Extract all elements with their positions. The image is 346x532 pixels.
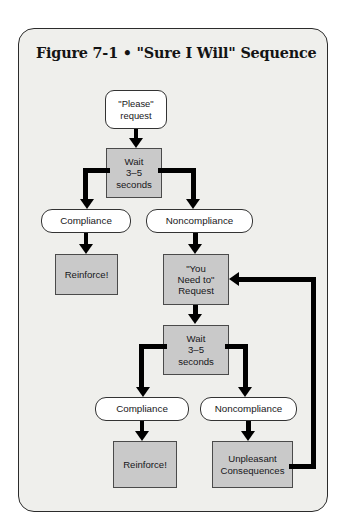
node-you-need-to-request-line2: Need to"	[177, 274, 214, 285]
node-compliance-1: Compliance	[41, 209, 131, 233]
node-wait-2-line2: 3–5	[178, 344, 214, 355]
edge-please-to-wait1-arrow	[129, 138, 143, 148]
figure-page: Figure 7-1 • "Sure I Will" Sequence "Ple…	[0, 0, 346, 532]
node-you-need-to-request: "You Need to" Request	[163, 254, 229, 305]
node-compliance-2-label: Compliance	[116, 403, 168, 415]
node-unpleasant-consequences: Unpleasant Consequences	[212, 441, 293, 488]
node-wait-1-line1: Wait	[116, 156, 152, 167]
node-reinforce-1-label: Reinforce!	[65, 269, 109, 280]
node-noncompliance-1-label: Noncompliance	[166, 215, 234, 227]
edge-wait1-left-v	[83, 168, 88, 201]
node-noncompliance-1: Noncompliance	[146, 209, 253, 233]
edge-wait2-left-arrow	[136, 387, 150, 397]
node-please-request-line2: request	[118, 110, 153, 121]
edge-wait1-left-arrow	[80, 199, 94, 209]
figure-title: Figure 7-1 • "Sure I Will" Sequence	[36, 44, 316, 61]
node-you-need-to-request-line1: "You	[177, 263, 214, 274]
node-wait-1: Wait 3–5 seconds	[106, 148, 162, 198]
node-noncompliance-2-label: Noncompliance	[215, 403, 283, 415]
node-unpleasant-consequences-line1: Unpleasant	[220, 453, 284, 464]
node-please-request-line1: "Please"	[118, 98, 153, 109]
edge-noncompliance1-to-request-arrow	[188, 244, 202, 254]
edge-compliance1-to-reinforce1-arrow	[79, 244, 93, 254]
edge-wait2-right-v	[243, 344, 248, 389]
edge-wait2-left-v	[139, 344, 144, 389]
node-reinforce-2: Reinforce!	[113, 441, 177, 488]
node-please-request: "Please" request	[105, 90, 167, 129]
node-wait-1-line3: seconds	[116, 179, 152, 190]
node-noncompliance-2: Noncompliance	[200, 397, 297, 421]
edge-wait1-right-v	[191, 168, 196, 201]
edge-wait2-right-arrow	[238, 387, 252, 397]
node-reinforce-2-label: Reinforce!	[123, 459, 167, 470]
node-wait-2: Wait 3–5 seconds	[163, 325, 229, 375]
edge-wait1-right-arrow	[186, 199, 200, 209]
node-wait-2-line1: Wait	[178, 333, 214, 344]
edge-feedback-top-h	[238, 277, 316, 282]
node-reinforce-1: Reinforce!	[55, 254, 118, 295]
node-wait-1-line2: 3–5	[116, 167, 152, 178]
edge-feedback-arrow	[229, 272, 239, 286]
edge-compliance2-to-reinforce2-arrow	[135, 431, 149, 441]
edge-feedback-right-v	[311, 277, 316, 468]
node-wait-2-line3: seconds	[178, 356, 214, 367]
edge-wait1-right-h	[158, 168, 196, 173]
node-unpleasant-consequences-line2: Consequences	[220, 465, 284, 476]
edge-request-to-wait2-arrow	[188, 314, 202, 324]
edge-noncompliance2-to-consequences-arrow	[241, 431, 255, 441]
node-you-need-to-request-line3: Request	[177, 285, 214, 296]
node-compliance-1-label: Compliance	[60, 215, 112, 227]
node-compliance-2: Compliance	[95, 397, 189, 421]
